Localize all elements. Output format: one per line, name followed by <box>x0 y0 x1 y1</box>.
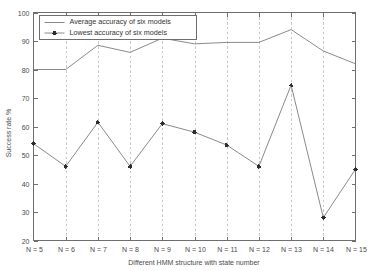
x-tick-label: N = 9 <box>154 246 171 253</box>
y-axis-label: Success rate % <box>5 109 12 158</box>
x-tick-label: N = 6 <box>58 246 75 253</box>
y-tick-labels: 2030405060708090100 <box>18 10 30 245</box>
x-tick-label: N = 14 <box>313 246 334 253</box>
data-point-marker <box>192 130 196 134</box>
y-tick-label: 50 <box>22 152 30 159</box>
y-tick-label: 90 <box>22 38 30 45</box>
y-tick-label: 30 <box>22 209 30 216</box>
y-tick-label: 80 <box>22 67 30 74</box>
x-tick-label: N = 11 <box>217 246 237 253</box>
legend-label-1: Average accuracy of six models <box>70 17 172 26</box>
y-tick-label: 100 <box>18 10 30 17</box>
chart-figure: 2030405060708090100 N = 5N = 6N = 7N = 8… <box>0 0 373 271</box>
x-tick-label: N = 13 <box>281 246 302 253</box>
line-chart: 2030405060708090100 N = 5N = 6N = 7N = 8… <box>0 0 373 271</box>
x-tick-label: N = 15 <box>346 246 367 253</box>
x-tick-label: N = 5 <box>26 246 43 253</box>
axis-ticks <box>34 13 356 242</box>
y-tick-label: 60 <box>22 124 30 131</box>
x-tick-labels: N = 5N = 6N = 7N = 8N = 9N = 10N = 11N =… <box>26 246 367 253</box>
axis-frame <box>34 13 356 241</box>
y-tick-label: 40 <box>22 181 30 188</box>
x-tick-label: N = 8 <box>122 246 139 253</box>
legend-label-2: Lowest accuracy of six models <box>70 28 168 37</box>
x-tick-label: N = 7 <box>90 246 107 253</box>
x-tick-label: N = 12 <box>249 246 270 253</box>
x-tick-label: N = 10 <box>185 246 206 253</box>
series-line-2 <box>34 85 356 218</box>
data-series <box>31 30 357 220</box>
x-axis-label: Different HMM structure with state numbe… <box>128 259 260 266</box>
data-point-marker <box>289 83 293 87</box>
plot-border <box>34 13 356 241</box>
chart-legend: Average accuracy of six modelsLowest acc… <box>40 16 197 40</box>
y-tick-label: 20 <box>22 238 30 245</box>
y-tick-label: 70 <box>22 95 30 102</box>
